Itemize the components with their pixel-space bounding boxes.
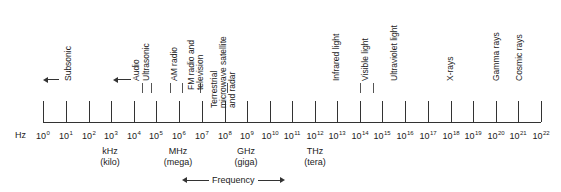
tick-label: 1019: [464, 130, 481, 141]
axis-tick: [134, 101, 135, 122]
tick-label: 107: [195, 130, 209, 141]
axis-tick: [66, 101, 67, 122]
band-ultraviolet: Ultraviolet light: [390, 25, 399, 81]
axis-tick: [473, 101, 474, 122]
audio-marker: [142, 83, 143, 93]
tick-label: 1013: [328, 130, 345, 141]
arrow-right-icon: [258, 180, 282, 181]
tick-label: 109: [240, 130, 254, 141]
axis-tick: [541, 101, 542, 122]
visible-end-marker: [373, 83, 374, 93]
axis-tick: [202, 101, 203, 122]
band-subsonic: Subsonic: [64, 46, 73, 81]
axis-tick: [315, 101, 316, 122]
tick-label: 1011: [284, 130, 301, 141]
tick-label: 1018: [442, 130, 459, 141]
axis-tick: [337, 101, 338, 122]
tick-label: 103: [104, 130, 118, 141]
band-fm-television: FM radio and television: [187, 30, 205, 90]
band-microwave: Terrestrial microwave satellite and rada…: [210, 32, 246, 108]
prefix-tera: THz(tera): [304, 146, 326, 168]
tick-label: 1021: [509, 130, 526, 141]
frequency-legend: Frequency: [185, 175, 282, 185]
subsonic-arrow-icon: [47, 79, 59, 80]
prefix-mega: MHz(mega): [164, 146, 193, 168]
axis-tick: [179, 101, 180, 122]
tick-label: 1014: [351, 130, 368, 141]
tick-label: 102: [82, 130, 96, 141]
tick-label: 100: [36, 130, 50, 141]
band-gamma-rays: Gamma rays: [492, 32, 501, 81]
axis-tick: [247, 101, 248, 122]
axis-tick: [111, 101, 112, 122]
tick-label: 108: [218, 130, 232, 141]
visible-start-marker: [360, 83, 361, 93]
axis-tick: [89, 101, 90, 122]
axis-tick: [405, 101, 406, 122]
tick-label: 1012: [306, 130, 323, 141]
axis-tick: [360, 101, 361, 122]
am-end-marker: [182, 83, 183, 93]
axis-tick: [518, 101, 519, 122]
band-x-rays: X-rays: [446, 56, 455, 81]
axis-tick: [156, 101, 157, 122]
band-ultrasonic: Ultrasonic: [142, 43, 151, 81]
tick-label: 1010: [261, 130, 278, 141]
arrow-left-icon: [185, 180, 209, 181]
frequency-label: Frequency: [212, 175, 255, 185]
axis-tick: [428, 101, 429, 122]
band-visible: Visible light: [361, 38, 370, 81]
band-audio: Audio: [132, 59, 141, 81]
band-cosmic-rays: Cosmic rays: [515, 34, 524, 81]
audio-arrow-icon: [117, 79, 131, 80]
tick-label: 101: [59, 130, 73, 141]
tick-label: 105: [149, 130, 163, 141]
prefix-giga: GHz(giga): [234, 146, 257, 168]
tick-label: 106: [172, 130, 186, 141]
tick-label: 1022: [532, 130, 549, 141]
tick-label: 104: [127, 130, 141, 141]
axis-tick: [451, 101, 452, 122]
band-infrared: Infrared light: [332, 34, 341, 81]
tick-label: 1020: [487, 130, 504, 141]
band-am-radio: AM radio: [170, 47, 179, 81]
tick-label: 1016: [396, 130, 413, 141]
prefix-kilo: kHz(kilo): [100, 146, 120, 168]
am-start-marker: [170, 83, 171, 93]
axis-tick: [496, 101, 497, 122]
axis-tick: [43, 101, 44, 122]
frequency-axis: [43, 122, 541, 123]
tick-label: 1015: [373, 130, 390, 141]
tick-label: 1017: [419, 130, 436, 141]
hz-label: Hz: [15, 130, 26, 140]
axis-tick: [382, 101, 383, 122]
axis-tick: [270, 101, 271, 122]
axis-tick: [292, 101, 293, 122]
ultrasonic-marker: [151, 83, 152, 93]
